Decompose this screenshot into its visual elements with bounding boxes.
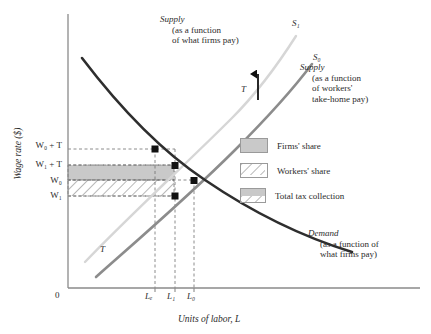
marker-w1-l1 bbox=[172, 193, 179, 200]
x-axis-title-text: Units of labor, L bbox=[178, 314, 240, 324]
firms-share-band bbox=[68, 165, 174, 180]
supply-shifted-annotation: Supply (as a function of what firms pay) bbox=[160, 14, 239, 46]
legend-label-firms-share: Firms' share bbox=[277, 141, 321, 151]
demand-note-line1: Demand bbox=[308, 228, 339, 238]
origin-label: 0 bbox=[55, 290, 60, 301]
legend-item-firms-share: Firms' share bbox=[240, 138, 344, 153]
tax-gap-label: T bbox=[100, 244, 105, 255]
legend-swatch-firms-share bbox=[240, 138, 268, 153]
supply-original-note-line4: take-home pay) bbox=[300, 94, 368, 105]
supply-original-annotation: Supply (as a function of workers' take-h… bbox=[300, 62, 368, 104]
workers-share-band bbox=[68, 180, 174, 196]
y-tick-w0: W₀ bbox=[6, 175, 62, 186]
legend-label-workers-share: Workers' share bbox=[277, 166, 330, 176]
supply-original-note-line1: Supply bbox=[300, 62, 325, 72]
legend-label-total-tax: Total tax collection bbox=[275, 191, 344, 201]
y-tick-w1-plus-t: W₁ + T bbox=[6, 159, 62, 170]
supply-original-note-line2: (as a function bbox=[300, 73, 368, 84]
legend-swatch-total-tax bbox=[240, 188, 266, 203]
tax-shift-label: T bbox=[241, 84, 246, 95]
supply-shifted-note-line1: Supply bbox=[160, 14, 185, 24]
tax-incidence-figure: Wage rate ($) Units of labor, L 0 W₀ + T… bbox=[0, 0, 431, 334]
demand-note-line2: (as a function of bbox=[308, 239, 379, 250]
demand-note-line3: what firms pay) bbox=[308, 249, 379, 260]
x-tick-l1: L₁ bbox=[167, 291, 175, 302]
plot-canvas bbox=[0, 0, 431, 334]
legend-swatch-total-bottom bbox=[240, 196, 266, 204]
marker-w0-l0 bbox=[191, 177, 198, 184]
marker-w0t-ld bbox=[152, 146, 159, 153]
x-axis-title: Units of labor, L bbox=[178, 314, 240, 325]
curve-tag-s1: S₁ bbox=[292, 18, 300, 29]
legend-swatch-total-top bbox=[240, 188, 266, 196]
supply-shifted-note-line2: (as a function bbox=[160, 25, 239, 36]
demand-annotation: Demand (as a function of what firms pay) bbox=[308, 228, 379, 260]
y-tick-w0-plus-t: W₀ + T bbox=[6, 140, 62, 151]
y-tick-w1: W₁ bbox=[6, 190, 62, 201]
legend-swatch-workers-share bbox=[240, 163, 268, 178]
legend-total-hatch-fill bbox=[241, 196, 265, 202]
x-tick-l0: L₀ bbox=[187, 291, 195, 302]
supply-original-note-line3: of workers' bbox=[300, 83, 368, 94]
legend-item-total-tax: Total tax collection bbox=[240, 188, 344, 203]
x-tick-ld: Lₑ bbox=[145, 291, 152, 302]
legend: Firms' share Workers' share Total tax co… bbox=[240, 138, 344, 213]
legend-hatch-fill bbox=[241, 164, 265, 175]
legend-item-workers-share: Workers' share bbox=[240, 163, 344, 178]
marker-w1t-l1 bbox=[172, 162, 179, 169]
supply-shifted-note-line3: of what firms pay) bbox=[160, 35, 239, 46]
